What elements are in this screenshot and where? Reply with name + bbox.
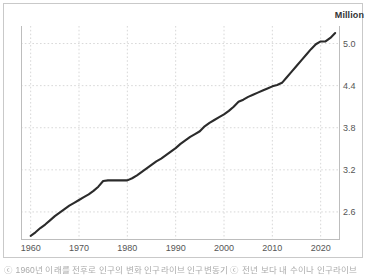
x-tick-1990: 1990 <box>166 243 186 253</box>
x-tick-2020: 2020 <box>311 243 331 253</box>
caption-strip: ⓒ 1960년 이래를 전후로 인구의 변화 인구라이브 인구변동기 ⓒ 전년 … <box>0 262 370 276</box>
plot-area <box>21 26 340 240</box>
y-tick-5.0: 5.0 <box>343 39 356 49</box>
unit-label: Million <box>335 10 364 20</box>
y-tick-3.8: 3.8 <box>343 123 356 133</box>
y-tick-3.2: 3.2 <box>343 165 356 175</box>
y-tick-2.6: 2.6 <box>343 207 356 217</box>
x-tick-1970: 1970 <box>69 243 89 253</box>
x-tick-2010: 2010 <box>262 243 282 253</box>
x-tick-1980: 1980 <box>117 243 137 253</box>
caption-text: ⓒ 1960년 이래를 전후로 인구의 변화 인구라이브 인구변동기 ⓒ 전년 … <box>4 263 357 275</box>
y-axis-tick-labels: 2.63.23.84.45.0 <box>343 26 369 240</box>
y-tick-4.4: 4.4 <box>343 81 356 91</box>
chart-screenshot: Million 2.63.23.84.45.0 1960197019801990… <box>0 0 370 276</box>
x-tick-1960: 1960 <box>21 243 41 253</box>
line-chart-svg <box>21 26 340 240</box>
x-tick-2000: 2000 <box>214 243 234 253</box>
x-axis-tick-labels: 1960197019801990200020102020 <box>21 243 340 257</box>
